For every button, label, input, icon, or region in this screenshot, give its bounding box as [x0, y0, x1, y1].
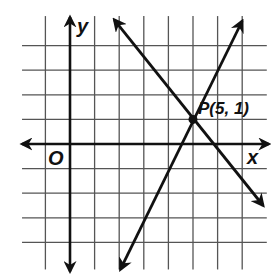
y-axis-label: y	[76, 15, 89, 37]
origin-label: O	[48, 147, 64, 169]
x-axis-label: x	[246, 146, 259, 168]
point-p	[189, 115, 198, 124]
point-p-label: P(5, 1)	[198, 99, 249, 118]
coordinate-plane: P(5, 1) x y O	[0, 0, 276, 278]
